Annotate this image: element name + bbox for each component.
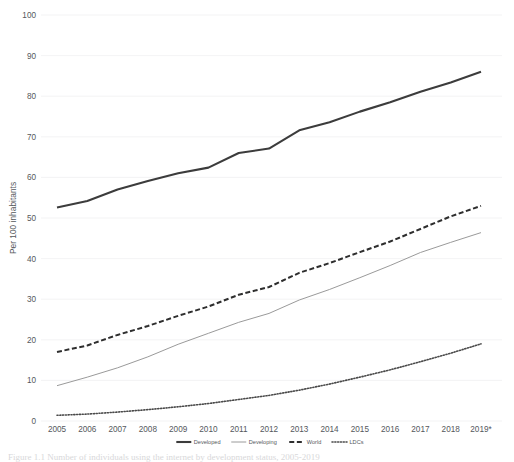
legend-label-developed[interactable]: Developed [194, 439, 221, 445]
figure-caption: Figure 1.1 Number of individuals using t… [8, 452, 508, 462]
series-line-world [57, 206, 481, 352]
series-line-ldcs [57, 344, 481, 415]
x-tick-label: 2009 [169, 425, 188, 434]
y-tick-label: 70 [27, 133, 37, 142]
x-tick-label: 2007 [108, 425, 127, 434]
x-tick-label: 2012 [260, 425, 279, 434]
legend-label-ldcs[interactable]: LDCs [350, 439, 364, 445]
y-tick-label: 50 [27, 214, 37, 223]
y-tick-label: 20 [27, 336, 37, 345]
x-tick-label: 2011 [230, 425, 248, 434]
x-tick-label: 2015 [351, 425, 370, 434]
y-tick-label: 100 [22, 11, 36, 20]
y-tick-label: 40 [27, 255, 37, 264]
x-tick-label: 2017 [411, 425, 430, 434]
legend-label-developing[interactable]: Developing [249, 439, 277, 445]
series-line-developed [57, 72, 481, 208]
x-tick-label: 2006 [78, 425, 97, 434]
y-axis-title: Per 100 inhabitants [8, 182, 18, 254]
x-tick-label: 2005 [48, 425, 67, 434]
y-tick-label: 10 [27, 376, 37, 385]
x-tick-label: 2016 [381, 425, 400, 434]
x-tick-label: 2010 [199, 425, 218, 434]
x-tick-label: 2008 [139, 425, 158, 434]
y-tick-label: 90 [27, 52, 37, 61]
y-tick-label: 60 [27, 173, 37, 182]
x-tick-label: 2018 [442, 425, 461, 434]
x-tick-label: 2013 [290, 425, 309, 434]
y-tick-label: 0 [31, 417, 36, 426]
y-tick-label: 80 [27, 92, 37, 101]
y-tick-label: 30 [27, 295, 37, 304]
x-tick-label: 2019* [470, 425, 492, 434]
x-tick-label: 2014 [320, 425, 339, 434]
legend-label-world[interactable]: World [307, 439, 322, 445]
line-chart-plot: 0102030405060708090100Per 100 inhabitant… [0, 0, 514, 462]
chart-figure: 0102030405060708090100Per 100 inhabitant… [0, 0, 514, 462]
